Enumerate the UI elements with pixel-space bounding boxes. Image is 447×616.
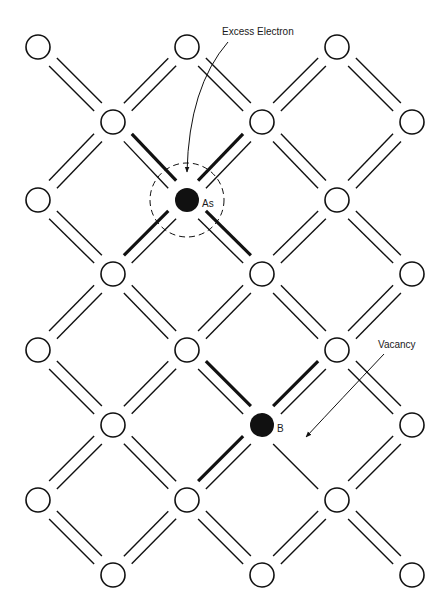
silicon-atom [400,110,424,134]
silicon-atom [400,413,424,437]
silicon-atom [250,262,274,286]
b-atom-label: B [277,423,284,434]
vacancy-bond-line [273,444,318,489]
silicon-atom [175,488,199,512]
excess-electron-label: Excess Electron [222,26,294,37]
lattice-diagram: Excess Electron Vacancy As B [0,0,447,616]
silicon-atom [175,35,199,59]
silicon-atom [26,188,50,212]
silicon-atom [325,188,349,212]
silicon-atom [101,413,125,437]
silicon-atom [26,35,50,59]
excess-electron-arrow [187,42,228,172]
silicon-atom [101,110,125,134]
silicon-atom [250,563,274,587]
as-atom-label: As [202,198,214,209]
silicon-atom [400,262,424,286]
b-atom [250,413,274,437]
silicon-atom [250,110,274,134]
dopant-atoms [175,188,274,437]
silicon-atom [26,338,50,362]
as-atom [175,188,199,212]
silicon-atom [101,563,125,587]
silicon-atom [175,338,199,362]
silicon-atom [101,262,125,286]
silicon-atom [26,488,50,512]
vacancy-label: Vacancy [378,339,416,350]
silicon-atoms [26,35,424,587]
covalent-bonds [49,58,401,564]
silicon-atom [325,338,349,362]
vacancy-arrow [306,354,384,437]
silicon-atom [400,563,424,587]
silicon-atom [325,488,349,512]
silicon-atom [325,35,349,59]
